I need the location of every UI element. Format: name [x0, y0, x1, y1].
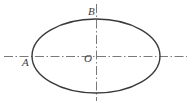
figure-background	[0, 0, 190, 106]
figure-canvas	[0, 0, 190, 106]
point-label-a: A	[22, 57, 29, 68]
point-label-b: B	[88, 6, 95, 17]
point-label-o: O	[84, 53, 92, 64]
ellipse-figure: A B O	[0, 0, 190, 106]
